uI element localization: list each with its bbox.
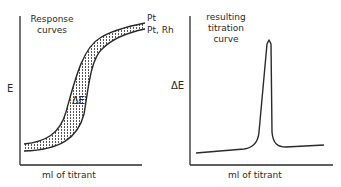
right-x-axis-label: ml of titrant [228, 170, 282, 180]
curve-pt-label: Pt [147, 13, 156, 23]
delta-e-band-label: ΔE [72, 96, 85, 106]
right-title-line1: resulting [196, 12, 256, 22]
curve-pt-rh-label: Pt, Rh [147, 25, 174, 35]
left-y-axis-label: E [7, 84, 13, 94]
left-title-line2: curves [28, 25, 76, 35]
left-title-line1: Response [28, 14, 76, 24]
right-title-line3: curve [196, 34, 256, 44]
right-title-line2: titration [196, 23, 256, 33]
titration-curve [196, 40, 324, 153]
delta-e-band [24, 23, 145, 151]
right-y-axis-label: ΔE [171, 81, 184, 91]
left-x-axis-label: ml of titrant [42, 170, 96, 180]
